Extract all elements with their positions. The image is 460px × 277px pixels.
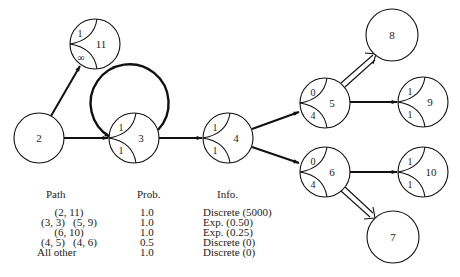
table-row-path: All other (37, 247, 76, 257)
node-4-top-value: 1 (213, 122, 218, 133)
edge-4-6 (252, 147, 299, 163)
node-3-top-value: 1 (119, 122, 124, 133)
header-prob: Prob. (137, 189, 161, 199)
node-10-bottom-value: 1 (408, 179, 413, 190)
node-5-top-value: 0 (311, 87, 316, 98)
node-10: 1 1 10 (398, 147, 448, 197)
node-11-label: 11 (96, 38, 107, 50)
edge-6-7-double (341, 187, 375, 219)
node-6-label: 6 (329, 166, 335, 178)
edge-5-8-double (341, 53, 376, 87)
node-7: 7 (367, 211, 419, 263)
node-11-bottom-value: ∞ (77, 52, 84, 63)
node-4-label: 4 (233, 132, 239, 144)
node-5: 0 4 5 (300, 78, 350, 128)
node-6: 0 4 6 (300, 147, 350, 197)
node-3: 1 1 3 (109, 113, 159, 163)
node-6-top-value: 0 (311, 156, 316, 167)
node-11: 1 ∞ 11 (70, 19, 120, 69)
node-3-label: 3 (138, 132, 144, 144)
node-5-label: 5 (329, 97, 335, 109)
node-8-label: 8 (389, 29, 395, 41)
node-9-bottom-value: 1 (408, 109, 413, 120)
node-2-label: 2 (36, 132, 42, 144)
header-info: Info. (217, 189, 238, 199)
edge-2-11 (51, 66, 80, 116)
node-9-label: 9 (427, 96, 433, 108)
node-10-label: 10 (426, 166, 438, 178)
header-path: Path (46, 189, 66, 199)
node-4-bottom-value: 1 (213, 145, 218, 156)
node-7-label: 7 (390, 231, 396, 243)
node-8: 8 (366, 9, 418, 61)
node-5-bottom-value: 4 (311, 110, 316, 121)
node-4: 1 1 4 (203, 113, 253, 163)
table-row-prob: 1.0 (140, 247, 154, 257)
path-info-table: Path Prob. Info. (2, 11) 1.0 Discrete (5… (0, 189, 300, 269)
node-9-top-value: 1 (408, 86, 413, 97)
node-9: 1 1 9 (398, 77, 448, 127)
node-2: 2 (14, 113, 64, 163)
node-11-top-value: 1 (78, 28, 83, 39)
node-6-bottom-value: 4 (311, 179, 316, 190)
node-3-bottom-value: 1 (119, 145, 124, 156)
table-row-info: Discrete (0) (203, 247, 255, 257)
node-10-top-value: 1 (408, 156, 413, 167)
edge-4-5 (252, 112, 299, 129)
